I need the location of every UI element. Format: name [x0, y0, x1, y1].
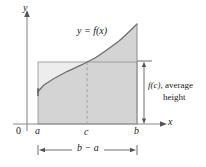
average-height-math: f(c),: [148, 80, 163, 90]
curve-equation-label: y = f(x): [77, 26, 107, 36]
x-axis-arrowhead: [160, 121, 167, 127]
height-arrow-down: [142, 119, 146, 125]
tick-label-c: c: [84, 127, 88, 137]
width-arrow-right: [130, 148, 136, 153]
origin-label: 0: [16, 126, 21, 136]
tick-label-b: b: [134, 126, 139, 136]
interval-width-label: b − a: [77, 143, 99, 153]
width-arrow-left: [39, 148, 45, 153]
x-axis-label: x: [168, 117, 172, 127]
average-height-word: average: [165, 80, 193, 90]
tick-label-a: a: [35, 126, 40, 136]
height-arrow-up: [142, 62, 146, 68]
y-axis-label: y: [23, 3, 27, 13]
average-value-figure: y x 0 a c b y = f(x) b − a f(c), average…: [0, 0, 206, 167]
average-height-label: f(c), average: [148, 81, 193, 90]
average-height-word2: height: [163, 93, 186, 102]
